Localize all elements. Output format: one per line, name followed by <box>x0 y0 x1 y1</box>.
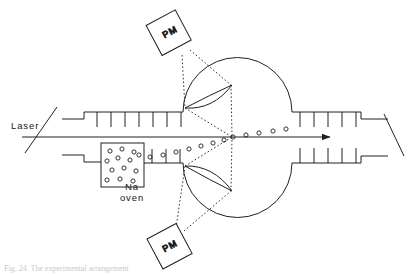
left-tube-lower-ticks <box>152 149 180 163</box>
oven-label-line1: Na <box>110 181 154 192</box>
collection-lens-bottom <box>185 166 232 191</box>
right-tube-upper-ticks <box>300 112 356 127</box>
fluorescence-rays-bottom <box>176 137 232 231</box>
exit-window <box>384 114 404 156</box>
laser-label: Laser <box>11 120 39 131</box>
figure-canvas: PM PM Laser Na oven Fig. 24. The experim… <box>0 0 412 274</box>
left-tube-upper-ticks <box>97 112 181 127</box>
oven-label: Na oven <box>110 181 154 203</box>
apparatus-diagram: PM PM <box>0 0 412 274</box>
right-tube-lower-ticks <box>300 148 356 163</box>
right-tube-upper-wall <box>292 112 388 119</box>
oven-atoms <box>105 147 141 183</box>
right-tube-lower-wall <box>292 156 388 163</box>
figure-caption: Fig. 24. The experimental arrangement <box>4 264 129 273</box>
oven-label-line2: oven <box>110 192 154 203</box>
sodium-atom-beam <box>148 127 288 159</box>
collection-lens-top <box>185 85 232 108</box>
left-tube-upper-wall <box>62 112 183 119</box>
